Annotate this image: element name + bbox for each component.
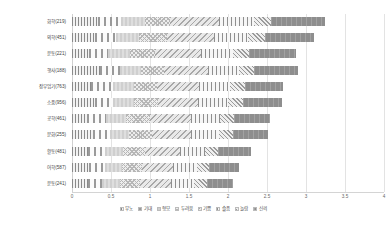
- bar-segment[interactable]: [265, 33, 314, 42]
- bar-segment[interactable]: [150, 114, 191, 123]
- bar-segment[interactable]: [121, 17, 144, 26]
- bar-segment[interactable]: [140, 179, 171, 188]
- stacked-bar[interactable]: [72, 179, 233, 188]
- bar-segment[interactable]: [113, 98, 135, 107]
- stacked-bar[interactable]: [72, 147, 251, 156]
- bar-segment[interactable]: [271, 17, 326, 26]
- bar-segment[interactable]: [171, 179, 194, 188]
- bar-segment[interactable]: [155, 49, 200, 58]
- bar-segment[interactable]: [145, 147, 179, 156]
- bar-segment[interactable]: [191, 114, 221, 123]
- stacked-bar[interactable]: [72, 33, 314, 42]
- bar-segment[interactable]: [105, 163, 122, 172]
- bar-segment[interactable]: [139, 33, 167, 42]
- bar-segment[interactable]: [106, 114, 126, 123]
- bar-segment[interactable]: [120, 179, 140, 188]
- bar-segment[interactable]: [234, 114, 270, 123]
- bar-segment[interactable]: [198, 98, 228, 107]
- bar-segment[interactable]: [205, 147, 218, 156]
- bar-segment[interactable]: [219, 130, 233, 139]
- bar-segment[interactable]: [72, 130, 93, 139]
- bar-segment[interactable]: [123, 147, 145, 156]
- bar-segment[interactable]: [243, 98, 282, 107]
- bar-segment[interactable]: [209, 163, 239, 172]
- bar-segment[interactable]: [173, 163, 196, 172]
- legend-item[interactable]: 슬픔: [216, 207, 230, 212]
- bar-segment[interactable]: [108, 49, 130, 58]
- bar-segment[interactable]: [93, 130, 110, 139]
- bar-segment[interactable]: [88, 179, 103, 188]
- bar-segment[interactable]: [72, 147, 88, 156]
- bar-segment[interactable]: [72, 114, 87, 123]
- bar-segment[interactable]: [157, 82, 199, 91]
- bar-segment[interactable]: [194, 179, 206, 188]
- bar-segment[interactable]: [91, 82, 113, 91]
- bar-segment[interactable]: [105, 147, 124, 156]
- stacked-bar[interactable]: [72, 98, 282, 107]
- stacked-bar[interactable]: [72, 17, 326, 26]
- bar-segment[interactable]: [207, 179, 234, 188]
- bar-segment[interactable]: [113, 82, 133, 91]
- bar-segment[interactable]: [167, 33, 214, 42]
- bar-segment[interactable]: [102, 179, 119, 188]
- bar-segment[interactable]: [95, 98, 112, 107]
- bar-segment[interactable]: [152, 130, 191, 139]
- bar-segment[interactable]: [239, 66, 255, 75]
- stacked-bar[interactable]: [72, 163, 239, 172]
- bar-segment[interactable]: [249, 49, 296, 58]
- bar-segment[interactable]: [130, 49, 156, 58]
- bar-segment[interactable]: [208, 66, 239, 75]
- bar-segment[interactable]: [72, 82, 91, 91]
- legend-item[interactable]: 놀람: [235, 207, 249, 212]
- bar-segment[interactable]: [72, 33, 95, 42]
- bar-segment[interactable]: [122, 163, 142, 172]
- stacked-bar[interactable]: [72, 66, 298, 75]
- bar-segment[interactable]: [120, 66, 140, 75]
- bar-segment[interactable]: [214, 33, 248, 42]
- bar-segment[interactable]: [164, 66, 208, 75]
- bar-segment[interactable]: [72, 49, 89, 58]
- stacked-bar[interactable]: [72, 82, 283, 91]
- bar-segment[interactable]: [254, 17, 270, 26]
- bar-segment[interactable]: [201, 49, 234, 58]
- legend-item[interactable]: 무노: [120, 207, 134, 212]
- bar-segment[interactable]: [87, 114, 106, 123]
- bar-segment[interactable]: [248, 33, 264, 42]
- legend-item[interactable]: 형모: [157, 207, 171, 212]
- bar-segment[interactable]: [220, 114, 234, 123]
- stacked-bar[interactable]: [72, 49, 296, 58]
- bar-segment[interactable]: [199, 82, 230, 91]
- bar-segment[interactable]: [72, 163, 89, 172]
- bar-segment[interactable]: [219, 17, 255, 26]
- legend-item[interactable]: 기대: [138, 207, 152, 212]
- bar-segment[interactable]: [191, 130, 219, 139]
- bar-segment[interactable]: [245, 82, 282, 91]
- bar-segment[interactable]: [170, 17, 218, 26]
- bar-segment[interactable]: [72, 179, 88, 188]
- bar-segment[interactable]: [72, 17, 98, 26]
- bar-segment[interactable]: [88, 147, 105, 156]
- bar-segment[interactable]: [126, 114, 150, 123]
- bar-segment[interactable]: [254, 66, 298, 75]
- bar-segment[interactable]: [218, 147, 251, 156]
- legend-item[interactable]: 두려움: [175, 207, 193, 212]
- bar-segment[interactable]: [116, 33, 139, 42]
- bar-segment[interactable]: [145, 17, 171, 26]
- bar-segment[interactable]: [95, 33, 115, 42]
- bar-segment[interactable]: [233, 130, 267, 139]
- bar-segment[interactable]: [180, 147, 205, 156]
- bar-segment[interactable]: [89, 163, 105, 172]
- bar-segment[interactable]: [197, 163, 209, 172]
- stacked-bar[interactable]: [72, 130, 268, 139]
- bar-segment[interactable]: [100, 66, 120, 75]
- bar-segment[interactable]: [141, 66, 164, 75]
- bar-segment[interactable]: [134, 82, 157, 91]
- bar-segment[interactable]: [72, 66, 100, 75]
- stacked-bar[interactable]: [72, 114, 270, 123]
- bar-segment[interactable]: [72, 98, 95, 107]
- bar-segment[interactable]: [228, 98, 243, 107]
- bar-segment[interactable]: [89, 49, 108, 58]
- bar-segment[interactable]: [134, 98, 157, 107]
- bar-segment[interactable]: [158, 98, 199, 107]
- bar-segment[interactable]: [230, 82, 245, 91]
